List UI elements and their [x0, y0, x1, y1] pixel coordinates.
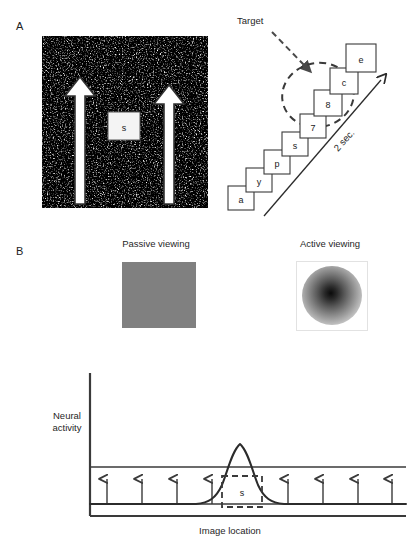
sampling-arrows-group [107, 479, 392, 504]
figure-root: A B [0, 0, 413, 544]
neural-activity-plot: s [0, 0, 413, 544]
suppressed-location-label: s [240, 488, 245, 498]
